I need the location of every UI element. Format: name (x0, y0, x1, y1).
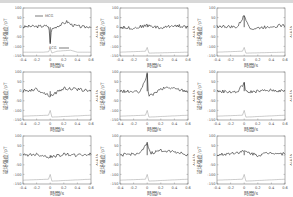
y-tick-label: -100 (207, 45, 216, 49)
y-tick-label: -50 (210, 99, 217, 103)
x-tick-label: 0.6 (185, 58, 191, 62)
chart-panel-7: -0.4-0.200.20.40.6100500-50-100-150時間/s磁… (1, 132, 98, 196)
x-tick-label: 0.2 (61, 122, 67, 126)
y-tick-label: 0 (19, 25, 22, 29)
y-axis-label: 磁场强度/pT (2, 146, 9, 173)
y2-axis-label: V/mV (289, 26, 292, 39)
y-tick-label: 0 (213, 153, 216, 157)
plot-frame (120, 8, 188, 56)
x-axis-label: 時間/s (147, 190, 162, 196)
chart-panel-2: -0.4-0.200.20.40.6100500-50-100-150時間/s磁… (98, 4, 195, 68)
ecg-line (120, 174, 188, 181)
y-tick-label: 50 (211, 80, 216, 84)
y-tick-label: 100 (209, 6, 217, 10)
y-tick-label: 0 (19, 153, 22, 157)
y-tick-label: -50 (16, 99, 23, 103)
y-tick-label: 0 (19, 89, 22, 93)
plot-frame (23, 136, 91, 184)
y-tick-label: -50 (16, 35, 23, 39)
y-tick-label: -50 (113, 163, 120, 167)
y-tick-label: -50 (210, 35, 217, 39)
ecg-line (217, 47, 285, 53)
x-tick-label: 0 (146, 58, 149, 62)
mcg-line (120, 142, 188, 156)
x-tick-label: 0.2 (158, 58, 164, 62)
y-tick-label: -100 (13, 45, 22, 49)
y-tick-label: -100 (207, 109, 216, 113)
x-tick-label: 0 (146, 186, 149, 190)
x-tick-label: 0.4 (172, 122, 178, 126)
x-tick-label: 0 (49, 186, 52, 190)
y-tick-label: -100 (13, 173, 22, 177)
y-tick-label: 50 (211, 144, 216, 148)
y-tick-label: -150 (13, 54, 22, 58)
x-tick-label: 0.6 (88, 186, 94, 190)
x-tick-label: 0.6 (282, 58, 288, 62)
x-tick-label: -0.2 (130, 186, 137, 190)
y-tick-label: 100 (112, 70, 120, 74)
x-tick-label: 0.4 (75, 186, 81, 190)
plot-frame (23, 8, 91, 56)
y-tick-label: 50 (17, 144, 22, 148)
chart-panel-1: -0.4-0.200.20.40.6100500-50-100-150時間/s磁… (1, 4, 98, 68)
y-tick-label: 0 (116, 153, 119, 157)
x-tick-label: 0.2 (158, 186, 164, 190)
x-tick-label: 0.2 (61, 58, 67, 62)
x-tick-label: 0.6 (282, 122, 288, 126)
x-tick-label: 0.2 (61, 186, 67, 190)
y-axis-label: 磁场强度/pT (196, 146, 203, 173)
y-tick-label: 50 (17, 80, 22, 84)
x-tick-label: -0.2 (33, 122, 40, 126)
top-border (0, 0, 293, 3)
plot-frame (120, 136, 188, 184)
y-tick-label: 50 (114, 144, 119, 148)
x-tick-label: -0.2 (130, 58, 137, 62)
x-tick-label: 0 (243, 58, 246, 62)
x-tick-label: 0 (49, 122, 52, 126)
x-tick-label: 0.4 (75, 58, 81, 62)
y-axis-label: 磁场强度/pT (99, 146, 106, 173)
x-tick-label: 0.4 (269, 122, 275, 126)
mcg-line (23, 87, 91, 97)
x-tick-label: 0 (49, 58, 52, 62)
y-tick-label: -150 (110, 118, 119, 122)
plot-frame (217, 136, 285, 184)
chart-grid: -0.4-0.200.20.40.6100500-50-100-150時間/s磁… (0, 4, 293, 197)
x-axis-label: 時間/s (244, 190, 259, 196)
plot-frame (217, 72, 285, 120)
y-tick-label: 100 (209, 70, 217, 74)
plot-frame (23, 72, 91, 120)
y-tick-label: 100 (15, 70, 23, 74)
y-tick-label: -100 (110, 173, 119, 177)
y-tick-label: 0 (213, 89, 216, 93)
mcg-line (120, 24, 188, 29)
x-tick-label: 0 (146, 122, 149, 126)
y-tick-label: -150 (207, 182, 216, 186)
chart-panel-9: -0.4-0.200.20.40.6100500-50-100-150時間/s磁… (195, 132, 292, 196)
y-tick-label: 100 (15, 6, 23, 10)
ecg-line (120, 47, 188, 53)
plot-frame (217, 8, 285, 56)
y-tick-label: -150 (207, 54, 216, 58)
y-tick-label: 50 (17, 16, 22, 20)
ecg-line (23, 174, 91, 181)
x-tick-label: 0.4 (172, 58, 178, 62)
y-axis-label: 磁场强度/pT (99, 18, 106, 45)
x-tick-label: 0.2 (255, 186, 261, 190)
y-tick-label: -100 (110, 109, 119, 113)
x-tick-label: -0.2 (130, 122, 137, 126)
x-tick-label: -0.2 (33, 58, 40, 62)
y-tick-label: 0 (116, 25, 119, 29)
y-axis-label: 磁场强度/pT (2, 82, 9, 109)
chart-panel-6: -0.4-0.200.20.40.6100500-50-100-150時間/s磁… (195, 68, 292, 132)
y-tick-label: 50 (114, 16, 119, 20)
y-axis-label: 磁场强度/pT (196, 82, 203, 109)
x-tick-label: 0 (243, 122, 246, 126)
x-tick-label: -0.2 (33, 186, 40, 190)
x-tick-label: -0.2 (227, 58, 234, 62)
y-tick-label: -150 (110, 182, 119, 186)
ecg-line (23, 48, 91, 53)
ecg-line (217, 174, 285, 181)
y-axis-label: 磁场强度/pT (196, 18, 203, 45)
y-tick-label: 0 (116, 89, 119, 93)
